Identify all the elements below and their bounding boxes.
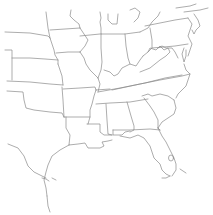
map-canvas xyxy=(0,0,213,215)
